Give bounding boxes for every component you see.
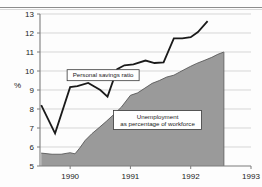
y-tick-label: 7 bbox=[30, 124, 35, 133]
x-tick-labels: 1990199119921993 bbox=[61, 172, 260, 181]
y-tick-label: 8 bbox=[30, 105, 35, 114]
annotation-unemployment-line1: Unemployment bbox=[137, 113, 179, 120]
annotation-unemployment: Unemployment as percentage of workforce bbox=[114, 111, 202, 130]
y-tick-label: 11 bbox=[26, 48, 35, 57]
y-tick-label: 5 bbox=[30, 162, 35, 171]
y-tick-label: 12 bbox=[25, 29, 34, 38]
x-tick-label: 1992 bbox=[182, 172, 200, 181]
annotation-personal-savings-ratio-text: Personal savings ratio bbox=[73, 71, 134, 78]
y-tick-label: 9 bbox=[30, 86, 35, 95]
y-tick-label: 10 bbox=[25, 67, 34, 76]
x-tick-label: 1993 bbox=[242, 172, 260, 181]
x-tick-label: 1990 bbox=[61, 172, 79, 181]
x-tick-label: 1991 bbox=[122, 172, 140, 181]
chart-figure: 5678910111213 1990199119921993 % Persona… bbox=[0, 0, 262, 187]
y-tick-labels: 5678910111213 bbox=[25, 10, 34, 171]
annotation-unemployment-line2: as percentage of workforce bbox=[120, 120, 195, 127]
y-axis-title: % bbox=[14, 81, 21, 90]
chart-plot: 5678910111213 1990199119921993 % Persona… bbox=[0, 0, 262, 187]
y-tick-label: 6 bbox=[30, 143, 35, 152]
annotation-personal-savings-ratio: Personal savings ratio bbox=[67, 70, 139, 81]
y-tick-label: 13 bbox=[25, 10, 34, 19]
